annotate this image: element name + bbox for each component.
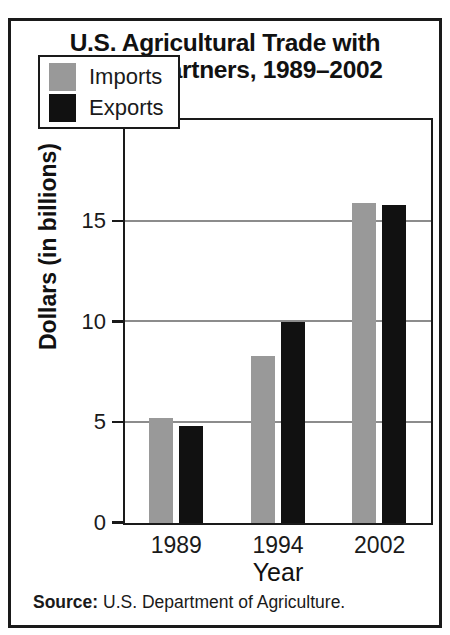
bar-imports-1989 — [149, 418, 173, 523]
chart-legend: Imports Exports — [38, 55, 180, 129]
bar-imports-2002 — [352, 203, 376, 523]
x-tick-label-2002: 2002 — [320, 534, 440, 557]
chart-figure: U.S. Agricultural Trade with NAFTA Partn… — [8, 18, 442, 628]
y-tick-label-0: 0 — [60, 512, 106, 534]
plot-area — [123, 118, 433, 525]
y-tick-label-5: 5 — [60, 411, 106, 433]
bar-exports-2002 — [382, 205, 406, 523]
legend-item-imports: Imports — [49, 62, 162, 92]
legend-swatch-exports — [49, 94, 76, 122]
y-axis-title: Dollars (in billions) — [35, 82, 62, 412]
y-tick-label-15: 15 — [60, 210, 106, 232]
legend-item-exports: Exports — [49, 93, 164, 123]
bar-imports-1994 — [251, 356, 275, 523]
legend-label-exports: Exports — [89, 97, 164, 119]
source-note: Source: U.S. Department of Agriculture. — [33, 594, 345, 612]
x-axis-title: Year — [123, 560, 433, 585]
legend-label-imports: Imports — [89, 66, 162, 88]
bar-exports-1989 — [179, 426, 203, 523]
legend-swatch-imports — [49, 63, 76, 91]
source-text: U.S. Department of Agriculture. — [103, 592, 345, 612]
chart-title-line-1: U.S. Agricultural Trade with — [11, 29, 439, 56]
source-label: Source: — [33, 592, 98, 612]
y-tick-label-10: 10 — [60, 311, 106, 333]
bar-exports-1994 — [281, 322, 305, 523]
